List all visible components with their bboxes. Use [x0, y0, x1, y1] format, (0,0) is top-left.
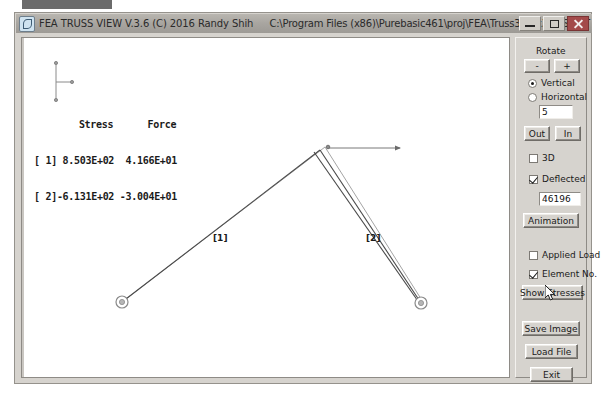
three-d-label: 3D: [542, 153, 555, 163]
rotate-plus-button[interactable]: +: [554, 59, 580, 73]
exit-button[interactable]: Exit: [530, 367, 573, 382]
background-window-strip: [22, 0, 112, 9]
stress-table-row: [ 2]-6.131E+02 -3.004E+01: [34, 191, 177, 203]
three-d-checkbox[interactable]: [529, 154, 538, 163]
rotate-section-label: Rotate: [536, 46, 565, 56]
applied-load-label: Applied Load: [542, 250, 600, 260]
applied-load-checkbox[interactable]: [529, 251, 538, 260]
rotate-vertical-label: Vertical: [541, 78, 575, 88]
load-file-button[interactable]: Load File: [525, 344, 578, 359]
minimize-icon: [525, 25, 535, 27]
deflected-label: Deflected: [542, 174, 585, 184]
support-node-left: [116, 296, 128, 308]
element-no-label: Element No.: [542, 269, 597, 279]
window-title: FEA TRUSS VIEW V.3.6 (C) 2016 Randy Shih: [39, 18, 253, 29]
rotate-angle-input[interactable]: 5: [539, 105, 573, 119]
animation-button[interactable]: Animation: [523, 213, 579, 228]
app-icon: [19, 16, 35, 32]
zoom-in-button[interactable]: In: [555, 126, 581, 141]
zoom-out-button[interactable]: Out: [524, 126, 550, 141]
rotate-horizontal-label: Horizontal: [541, 92, 587, 102]
control-panel: Rotate - + Vertical Horizontal 5 Out In …: [515, 37, 587, 378]
window-controls: [519, 16, 589, 31]
rotate-minus-button[interactable]: -: [524, 59, 550, 73]
stress-force-table: Stress Force [ 1] 8.503E+02 4.166E+01 [ …: [34, 95, 177, 227]
rotate-vertical-radio[interactable]: [528, 79, 537, 88]
stress-table-row: [ 1] 8.503E+02 4.166E+01: [34, 155, 177, 167]
element-label-2: [2]: [366, 233, 381, 243]
show-stresses-button[interactable]: Show Stresses: [522, 285, 583, 300]
truss-canvas[interactable]: Stress Force [ 1] 8.503E+02 4.166E+01 [ …: [21, 37, 510, 378]
app-window: FEA TRUSS VIEW V.3.6 (C) 2016 Randy Shih…: [14, 12, 592, 384]
stress-table-header: Stress Force: [56, 119, 177, 131]
load-arrow-icon: [326, 145, 401, 150]
deflected-checkbox[interactable]: [529, 175, 538, 184]
close-button[interactable]: [567, 16, 589, 31]
screen: FEA TRUSS VIEW V.3.6 (C) 2016 Randy Shih…: [0, 0, 601, 396]
minimize-button[interactable]: [519, 16, 541, 31]
save-image-button[interactable]: Save Image: [522, 321, 580, 336]
title-bar[interactable]: FEA TRUSS VIEW V.3.6 (C) 2016 Randy Shih…: [16, 14, 592, 33]
deflected-scale-input[interactable]: 46196: [539, 192, 581, 206]
maximize-icon: [550, 20, 559, 28]
maximize-button[interactable]: [543, 16, 565, 31]
support-node-right: [415, 297, 427, 309]
element-no-checkbox[interactable]: [529, 270, 538, 279]
element-label-1: [1]: [213, 233, 228, 243]
rotate-horizontal-radio[interactable]: [528, 93, 537, 102]
